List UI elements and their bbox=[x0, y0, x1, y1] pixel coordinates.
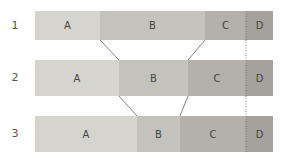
connector-lines bbox=[0, 0, 285, 162]
